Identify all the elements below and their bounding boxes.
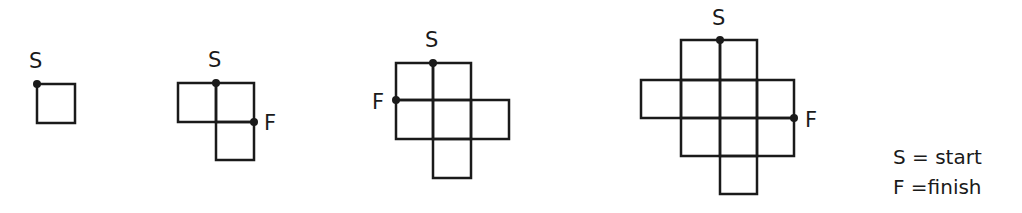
figure-3-cell — [433, 139, 471, 178]
figure-3-cell — [433, 100, 471, 139]
diagram-canvas: S S F S F S F S = start F =finish — [0, 0, 1022, 213]
figure-2-start-label: S — [208, 48, 221, 72]
figure-4-cell — [720, 80, 757, 118]
figure-2-finish-dot — [250, 118, 258, 126]
figure-1-start-dot — [33, 80, 41, 88]
legend-start: S = start — [893, 142, 982, 172]
legend-finish: F =finish — [893, 172, 982, 202]
figure-3-cell — [433, 63, 471, 100]
figure-3-start-dot — [429, 59, 437, 67]
diagram-svg: S S F S F S F — [0, 0, 1022, 213]
figure-4-finish-dot — [790, 114, 798, 122]
figure-3-finish-dot — [392, 96, 400, 104]
figure-1-cell — [37, 84, 75, 123]
figure-3-cell — [471, 100, 509, 139]
figure-4-cell — [681, 118, 720, 156]
figure-2-start-dot — [212, 79, 220, 87]
figure-3-cell — [396, 100, 433, 139]
figure-1-start-label: S — [29, 49, 42, 73]
figure-4-cell — [720, 118, 757, 156]
figure-4-cell — [681, 80, 720, 118]
figure-4-cell — [757, 118, 794, 156]
figure-4-start-dot — [716, 36, 724, 44]
figure-3-cell — [396, 63, 433, 100]
figure-3-finish-label: F — [372, 90, 384, 114]
figure-2-finish-label: F — [264, 111, 276, 135]
figure-1 — [37, 84, 75, 123]
legend: S = start F =finish — [893, 142, 982, 202]
figure-4-cell — [641, 80, 681, 118]
figure-4-cell — [757, 80, 794, 118]
figure-4 — [641, 40, 794, 194]
figure-2-cell — [216, 122, 254, 160]
figure-2-cell — [178, 83, 216, 122]
figure-4-cell — [720, 156, 757, 194]
figure-4-cell — [681, 40, 720, 80]
figure-4-cell — [720, 40, 757, 80]
figure-3 — [396, 63, 509, 178]
figure-4-finish-label: F — [805, 108, 817, 132]
figure-3-start-label: S — [425, 28, 438, 52]
figure-2 — [178, 83, 254, 160]
figure-4-start-label: S — [712, 6, 725, 30]
figure-2-cell — [216, 83, 254, 122]
